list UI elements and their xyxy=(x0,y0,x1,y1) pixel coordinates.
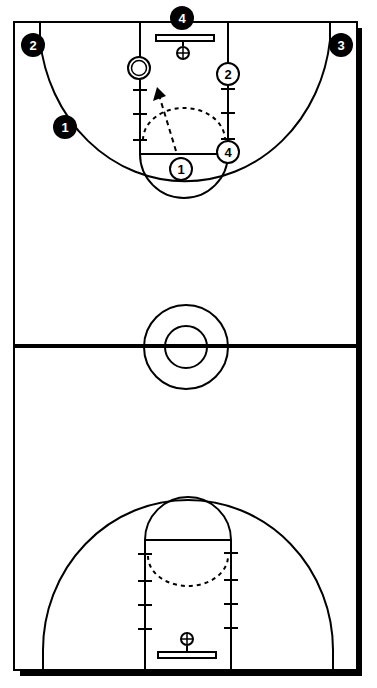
offense-player-1: 1 xyxy=(170,158,192,180)
ball-icon xyxy=(128,57,150,79)
lane-hash-marks-top xyxy=(133,89,235,140)
basketball-court-diagram: 4 2 3 1 2 4 1 xyxy=(0,0,377,688)
svg-text:4: 4 xyxy=(224,145,232,160)
three-point-arc-top xyxy=(40,22,330,181)
basket-icon-bottom xyxy=(181,633,193,645)
free-throw-circle-dashed-top xyxy=(143,108,225,140)
cut-arrow-path xyxy=(159,95,176,151)
lane-hash-marks-bottom xyxy=(138,553,238,629)
defense-player-1: 1 xyxy=(53,115,77,139)
bottom-half-court xyxy=(43,497,333,670)
svg-text:3: 3 xyxy=(337,38,344,53)
svg-text:1: 1 xyxy=(177,162,184,177)
svg-text:1: 1 xyxy=(61,120,68,135)
offense-player-2: 2 xyxy=(217,63,239,85)
defense-player-4: 4 xyxy=(170,6,194,30)
defense-player-2: 2 xyxy=(21,33,45,57)
basket-icon xyxy=(177,47,189,59)
backboard-top xyxy=(156,35,214,41)
svg-text:4: 4 xyxy=(178,11,186,26)
backboard-bottom xyxy=(158,652,216,658)
free-throw-circle-dashed-bottom xyxy=(148,556,228,586)
svg-text:2: 2 xyxy=(224,67,231,82)
svg-text:2: 2 xyxy=(29,38,36,53)
offense-player-4: 4 xyxy=(217,141,239,163)
defense-player-3: 3 xyxy=(329,33,353,57)
